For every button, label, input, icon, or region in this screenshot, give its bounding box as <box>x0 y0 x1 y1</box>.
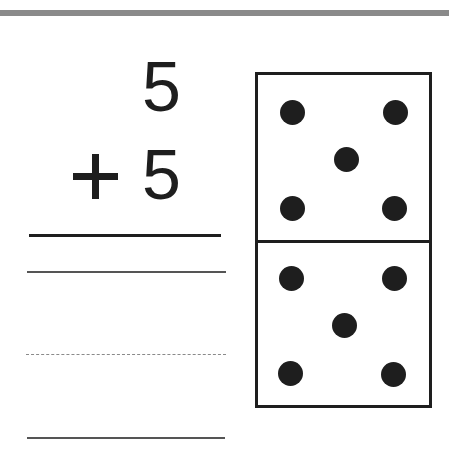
addend-1: 5 <box>142 52 181 122</box>
addend-2: 5 <box>142 140 181 210</box>
sum-line <box>29 234 221 237</box>
top-divider-bar <box>0 10 449 16</box>
dot-icon <box>280 100 305 125</box>
dot-icon <box>280 196 305 221</box>
dot-icon <box>381 362 406 387</box>
dot-icon <box>279 266 304 291</box>
answer-writing-line-midline <box>26 354 226 355</box>
dot-icon <box>383 100 408 125</box>
answer-writing-line-top[interactable] <box>27 271 226 273</box>
domino <box>255 72 432 408</box>
dot-icon <box>382 196 407 221</box>
dot-icon <box>278 361 303 386</box>
answer-writing-line-bottom <box>27 437 225 439</box>
dot-icon <box>334 147 359 172</box>
domino-divider <box>258 240 429 243</box>
dot-icon <box>382 266 407 291</box>
plus-vertical-stroke <box>92 154 99 199</box>
dot-icon <box>332 313 357 338</box>
